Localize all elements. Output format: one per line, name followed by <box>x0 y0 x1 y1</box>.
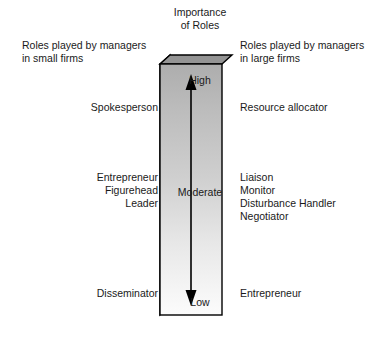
roles-right-low-group: Entrepreneur <box>240 287 389 300</box>
roles-right-moderate-group: Liaison Monitor Disturbance Handler Nego… <box>240 171 389 223</box>
role-label: Entrepreneur <box>18 171 158 184</box>
role-label: Spokesperson <box>18 101 158 114</box>
role-label: Entrepreneur <box>240 287 389 300</box>
role-label: Disturbance Handler <box>240 197 389 210</box>
column-header-large-firms-line-2: in large firms <box>240 52 389 65</box>
column-header-small-firms: Roles played by managers in small firms <box>22 39 172 64</box>
column-header-small-firms-line-1: Roles played by managers <box>22 39 172 52</box>
role-label: Figurehead <box>18 184 158 197</box>
roles-left-high-group: Spokesperson <box>18 101 158 114</box>
scale-label-moderate: Moderate <box>168 186 232 198</box>
page-title: Importance of Roles <box>140 6 260 31</box>
roles-right-high-group: Resource allocator <box>240 101 389 114</box>
scale-label-low: Low <box>168 296 232 308</box>
roles-left-moderate-group: Entrepreneur Figurehead Leader <box>18 171 158 210</box>
page-title-line-2: of Roles <box>140 19 260 32</box>
role-label: Resource allocator <box>240 101 389 114</box>
roles-left-low-group: Disseminator <box>18 287 158 300</box>
role-label: Liaison <box>240 171 389 184</box>
column-header-large-firms-line-1: Roles played by managers <box>240 39 389 52</box>
role-label: Disseminator <box>18 287 158 300</box>
role-label: Leader <box>18 197 158 210</box>
column-header-large-firms: Roles played by managers in large firms <box>240 39 389 64</box>
column-header-small-firms-line-2: in small firms <box>22 52 172 65</box>
page-title-line-1: Importance <box>140 6 260 19</box>
role-label: Negotiator <box>240 210 389 223</box>
figure-container: Importance of Roles Roles played by mana… <box>0 0 389 337</box>
role-label: Monitor <box>240 184 389 197</box>
bar-top-face <box>160 55 232 64</box>
scale-label-high: High <box>168 74 232 86</box>
